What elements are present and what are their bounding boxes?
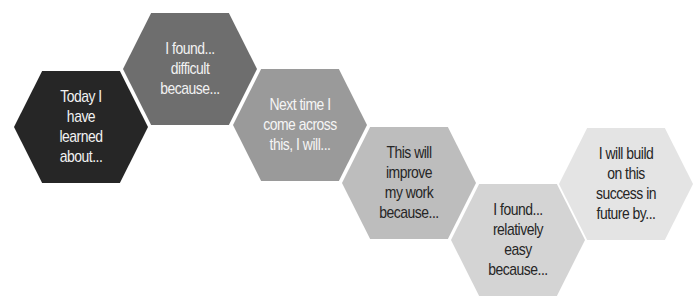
hexagon-label: This will improve my work because... <box>364 143 454 223</box>
hexagon-label: I will build on this success in future b… <box>581 144 671 224</box>
hexagon-label: I found... difficult because... <box>145 39 235 99</box>
hexagon-today-learned: Today I have learned about... <box>14 71 148 183</box>
hexagon-improve-work: This will improve my work because... <box>342 127 476 239</box>
hexagon-build-success: I will build on this success in future b… <box>559 128 693 240</box>
hexagon-label: Today I have learned about... <box>36 87 126 167</box>
hexagon-found-easy: I found... relatively easy because... <box>451 184 585 296</box>
hexagon-found-difficult: I found... difficult because... <box>123 13 257 125</box>
hexagon-label: Next time I come across this, I will... <box>255 95 345 155</box>
hexagon-label: I found... relatively easy because... <box>473 200 563 280</box>
hexagon-next-time: Next time I come across this, I will... <box>233 69 367 181</box>
